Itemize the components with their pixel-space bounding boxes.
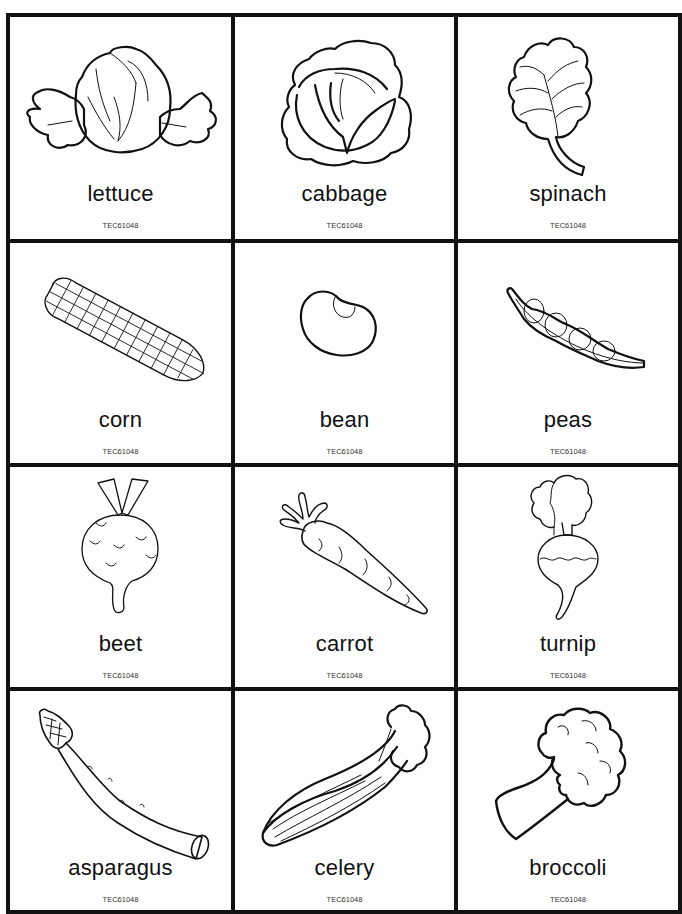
card-label: carrot [235, 631, 454, 657]
card-label: beet [10, 631, 231, 657]
card-label: turnip [458, 631, 678, 657]
card-label: bean [235, 407, 454, 433]
card-code: TEC61048 [10, 895, 231, 904]
card-code: TEC61048 [235, 671, 454, 680]
card-celery: celery TEC61048 [235, 691, 454, 910]
card-label: lettuce [10, 181, 231, 207]
peas-icon [458, 243, 678, 413]
card-label: celery [235, 855, 454, 881]
carrot-icon [235, 467, 454, 637]
card-lettuce: lettuce TEC61048 [10, 17, 231, 239]
card-spinach: spinach TEC61048 [458, 17, 678, 239]
card-beet: beet TEC61048 [10, 467, 231, 687]
card-asparagus: asparagus TEC61048 [10, 691, 231, 910]
asparagus-icon [10, 691, 231, 861]
card-label: spinach [458, 181, 678, 207]
card-label: corn [10, 407, 231, 433]
bean-icon [235, 243, 454, 413]
vegetable-card-sheet: lettuce TEC61048 cabbage TEC61048 spinac… [6, 13, 682, 914]
card-label: asparagus [10, 855, 231, 881]
card-code: TEC61048 [458, 671, 678, 680]
card-peas: peas TEC61048 [458, 243, 678, 463]
spinach-icon [458, 17, 678, 187]
card-code: TEC61048 [458, 447, 678, 456]
broccoli-icon [458, 691, 678, 861]
card-code: TEC61048 [10, 447, 231, 456]
card-code: TEC61048 [235, 447, 454, 456]
turnip-icon [458, 467, 678, 637]
card-code: TEC61048 [458, 221, 678, 230]
card-code: TEC61048 [235, 895, 454, 904]
card-label: cabbage [235, 181, 454, 207]
card-broccoli: broccoli TEC61048 [458, 691, 678, 910]
lettuce-icon [10, 17, 231, 187]
beet-icon [10, 467, 231, 637]
card-label: peas [458, 407, 678, 433]
card-code: TEC61048 [10, 221, 231, 230]
celery-icon [235, 691, 454, 861]
card-carrot: carrot TEC61048 [235, 467, 454, 687]
cabbage-icon [235, 17, 454, 187]
card-corn: corn TEC61048 [10, 243, 231, 463]
card-code: TEC61048 [235, 221, 454, 230]
corn-icon [10, 243, 231, 413]
card-code: TEC61048 [458, 895, 678, 904]
card-turnip: turnip TEC61048 [458, 467, 678, 687]
card-cabbage: cabbage TEC61048 [235, 17, 454, 239]
card-code: TEC61048 [10, 671, 231, 680]
card-bean: bean TEC61048 [235, 243, 454, 463]
card-label: broccoli [458, 855, 678, 881]
